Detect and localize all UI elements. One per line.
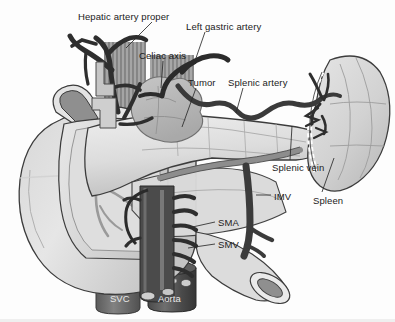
leader-splenic-artery [236,88,243,113]
label-left-gastric-artery: Left gastric artery [186,22,261,32]
label-celiac-axis: Celiac axis [139,51,186,61]
anatomy-illustration-canvas [0,0,395,322]
label-splenic-artery: Splenic artery [228,78,287,88]
label-smv: SMV [218,240,239,250]
label-imv: IMV [274,192,291,202]
vessel-label-svc: SVC [110,294,130,304]
leader-left-gastric-artery [196,32,205,58]
label-tumor: Tumor [188,78,216,88]
label-spleen: Spleen [313,196,343,206]
label-sma: SMA [218,218,239,228]
medical-illustration-figure: Hepatic artery properLeft gastric artery… [0,0,395,322]
vessel-label-aorta: Aorta [158,294,181,304]
label-splenic-vein: Splenic vein [272,163,324,173]
label-hepatic-artery-proper: Hepatic artery proper [78,12,169,22]
